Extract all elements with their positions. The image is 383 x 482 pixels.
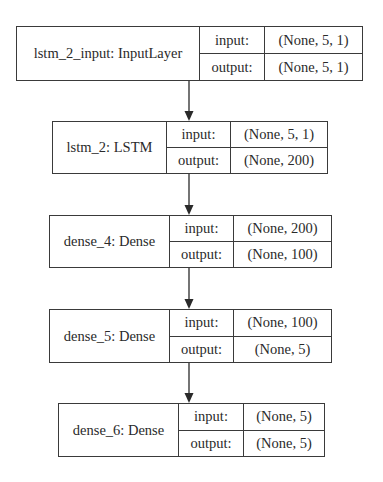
edge-1-arrow [185, 80, 194, 121]
output-shape: (None, 100) [234, 242, 331, 267]
io-labels: input: output: [200, 27, 265, 80]
output-shape: (None, 5) [234, 337, 331, 363]
output-shape: (None, 5, 1) [265, 54, 362, 80]
input-label: input: [179, 404, 243, 431]
node-dense-5: dense_5: Dense input: output: (None, 100… [49, 309, 332, 363]
input-shape: (None, 5) [244, 404, 324, 431]
edge-4-arrow [185, 362, 194, 403]
io-shapes: (None, 5, 1) (None, 200) [231, 122, 327, 173]
edge-3-arrow [185, 267, 194, 309]
node-dense-4: dense_4: Dense input: output: (None, 200… [49, 215, 332, 268]
io-shapes: (None, 5, 1) (None, 5, 1) [265, 27, 362, 80]
input-shape: (None, 200) [234, 216, 331, 242]
node-lstm-2-input: lstm_2_input: InputLayer input: output: … [16, 26, 363, 81]
node-title: lstm_2_input: InputLayer [17, 27, 200, 80]
io-shapes: (None, 200) (None, 100) [234, 216, 331, 267]
node-dense-6: dense_6: Dense input: output: (None, 5) … [58, 403, 325, 457]
output-label: output: [167, 148, 230, 173]
io-shapes: (None, 5) (None, 5) [244, 404, 324, 456]
output-label: output: [170, 242, 233, 267]
node-title: dense_4: Dense [50, 216, 170, 267]
io-labels: input: output: [170, 216, 234, 267]
io-shapes: (None, 100) (None, 5) [234, 310, 331, 362]
input-shape: (None, 5, 1) [231, 122, 327, 148]
node-title: dense_6: Dense [59, 404, 179, 456]
input-label: input: [170, 216, 233, 242]
node-title: lstm_2: LSTM [53, 122, 167, 173]
output-shape: (None, 200) [231, 148, 327, 173]
node-title: dense_5: Dense [50, 310, 170, 362]
output-shape: (None, 5) [244, 431, 324, 457]
io-labels: input: output: [179, 404, 244, 456]
input-label: input: [200, 27, 264, 54]
output-label: output: [170, 337, 233, 363]
input-label: input: [170, 310, 233, 337]
input-shape: (None, 100) [234, 310, 331, 337]
edge-2-arrow [185, 173, 194, 215]
output-label: output: [179, 431, 243, 457]
input-shape: (None, 5, 1) [265, 27, 362, 54]
output-label: output: [200, 54, 264, 80]
input-label: input: [167, 122, 230, 148]
node-lstm-2: lstm_2: LSTM input: output: (None, 5, 1)… [52, 121, 328, 174]
io-labels: input: output: [170, 310, 234, 362]
io-labels: input: output: [167, 122, 231, 173]
